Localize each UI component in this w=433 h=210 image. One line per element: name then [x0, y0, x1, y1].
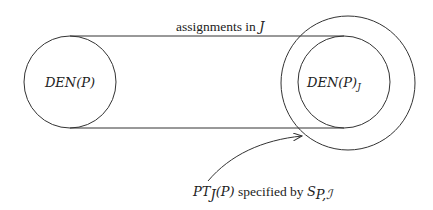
diagram-canvas: DEN(P) DEN(P)J assignments in J PTJ(P) s… [0, 0, 433, 210]
pt-pointer-arrow [208, 136, 302, 181]
den-p-j-label: DEN(P)J [306, 75, 362, 92]
pt-specified-label: PTJ(P) specified by SP,ℐ [192, 184, 334, 202]
assignments-label: assignments in J [176, 19, 265, 34]
den-p-label: DEN(P) [44, 75, 95, 90]
